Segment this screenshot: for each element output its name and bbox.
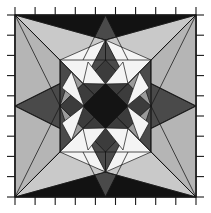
polyhedron-projection-plot [0,0,211,213]
figure-container [0,0,211,213]
polyhedron-faces [15,15,196,197]
